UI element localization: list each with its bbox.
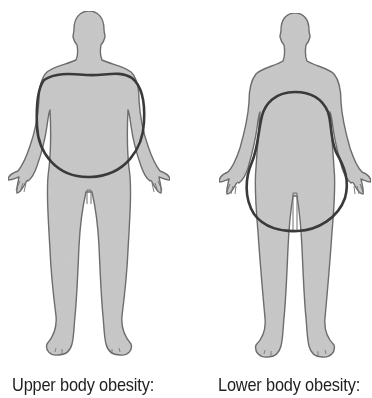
male-figure bbox=[8, 11, 170, 355]
female-crotch-line bbox=[293, 193, 297, 232]
female-body-silhouette bbox=[219, 13, 371, 357]
male-body-silhouette bbox=[8, 11, 170, 355]
lower-body-obesity-label: Lower body obesity: bbox=[218, 374, 360, 396]
female-figure bbox=[219, 13, 371, 357]
upper-body-obesity-label: Upper body obesity: bbox=[12, 374, 154, 396]
body-figures bbox=[0, 0, 372, 398]
obesity-diagram: Upper body obesity: Lower body obesity: bbox=[0, 0, 372, 398]
